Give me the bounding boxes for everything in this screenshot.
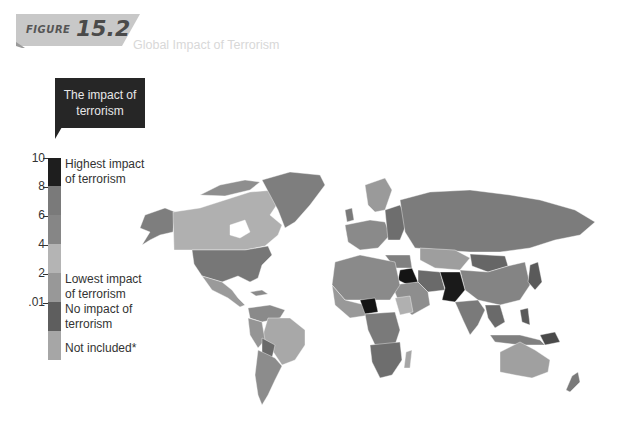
central-africa — [365, 312, 400, 345]
figure-tab: FIGURE 15.2 — [16, 14, 140, 46]
se-asia — [485, 305, 505, 328]
figure-title: Global Impact of Terrorism — [133, 38, 279, 52]
tickmark — [43, 245, 48, 246]
tick-001: .01 — [28, 295, 45, 309]
legend-band-lowest — [48, 273, 61, 302]
new-zealand — [566, 372, 580, 392]
western-europe — [345, 220, 390, 250]
tick-6: 6 — [38, 208, 45, 222]
north-africa — [332, 255, 400, 300]
tickmark — [43, 274, 48, 275]
tickmark — [43, 158, 48, 159]
callout-tail — [55, 127, 67, 139]
legend-band-6-8 — [48, 186, 61, 215]
tickmark — [43, 303, 48, 304]
tick-2: 2 — [38, 266, 45, 280]
legend-band-none — [48, 302, 61, 331]
legend-band-highest — [48, 158, 61, 186]
uk — [345, 208, 354, 222]
russia — [400, 190, 595, 252]
legend-band-4-6 — [48, 215, 61, 244]
japan-korea — [528, 262, 542, 290]
figure-number: 15.2 — [76, 16, 130, 41]
figure-label: FIGURE — [26, 24, 70, 35]
australia — [500, 342, 550, 378]
legend-title: The impact of terrorism — [55, 87, 145, 119]
canada — [173, 190, 282, 250]
southern-africa — [370, 342, 402, 378]
legend-callout: The impact of terrorism — [55, 78, 145, 128]
philippines — [520, 308, 530, 325]
tick-8: 8 — [38, 179, 45, 193]
alaska — [140, 208, 175, 245]
madagascar — [404, 350, 412, 368]
india — [455, 300, 485, 335]
ethiopia — [395, 296, 413, 315]
legend-color-scale — [48, 158, 61, 360]
tick-4: 4 — [38, 237, 45, 251]
legend-band-2-4 — [48, 244, 61, 273]
world-map — [120, 165, 635, 415]
scandinavia — [365, 178, 392, 212]
caribbean — [250, 290, 268, 296]
legend-band-not-included — [48, 331, 61, 360]
tickmark — [43, 216, 48, 217]
tickmark — [43, 187, 48, 188]
